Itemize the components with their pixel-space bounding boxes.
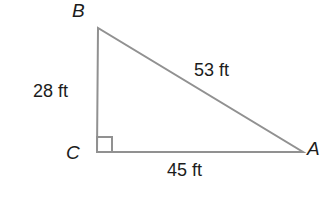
vertex-label-a: A xyxy=(306,138,320,159)
side-label-ca: 45 ft xyxy=(167,160,202,180)
triangle-figure: B C A 28 ft 53 ft 45 ft xyxy=(0,0,336,199)
triangle-outline xyxy=(97,28,303,152)
vertex-label-b: B xyxy=(72,0,85,21)
vertex-label-c: C xyxy=(66,142,80,163)
triangle-diagram: B C A 28 ft 53 ft 45 ft xyxy=(0,0,336,199)
right-angle-icon xyxy=(97,137,112,152)
side-label-ba: 53 ft xyxy=(194,60,229,80)
side-label-bc: 28 ft xyxy=(33,81,68,101)
